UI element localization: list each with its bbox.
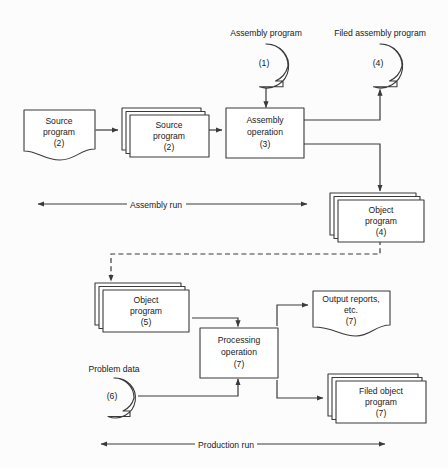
assembly-run-label: Assembly run xyxy=(130,200,182,210)
source-program-document-line2: program xyxy=(43,127,75,137)
object-program-deck-5: Object program (5) xyxy=(95,283,189,332)
problem-data-caption: Problem data xyxy=(88,364,139,374)
object-program-deck-5-line3: (5) xyxy=(141,317,152,327)
assembly-program-value: (1) xyxy=(259,58,270,68)
output-reports-line2: etc. xyxy=(344,305,358,315)
connector-assembly-to-object-program-4 xyxy=(304,144,380,191)
source-program-deck: Source program (2) xyxy=(122,108,209,157)
source-program-deck-line3: (2) xyxy=(164,142,175,152)
source-program-document-line3: (2) xyxy=(54,138,65,148)
filed-assembly-program-tape: Filed assembly program (4) xyxy=(334,28,426,88)
object-program-deck-5-line2: program xyxy=(130,306,162,316)
source-program-document-line1: Source xyxy=(45,116,72,126)
flowchart-diagram: Source program (2) Source program (2) As… xyxy=(0,0,448,468)
source-program-deck-line1: Source xyxy=(155,120,182,130)
processing-operation-line3: (7) xyxy=(234,359,245,369)
production-run-label: Production run xyxy=(198,440,254,450)
processing-operation-line2: operation xyxy=(221,347,257,357)
filed-assembly-program-value: (4) xyxy=(373,58,384,68)
assembly-operation-process: Assembly operation (3) xyxy=(226,108,304,158)
source-program-document: Source program (2) xyxy=(24,110,95,160)
filed-object-program-line1: Filed object xyxy=(359,386,404,396)
processing-operation-process: Processing operation (7) xyxy=(200,328,278,378)
object-program-deck-5-line1: Object xyxy=(134,295,159,305)
source-program-deck-line2: program xyxy=(153,131,185,141)
filed-object-program-line3: (7) xyxy=(376,408,387,418)
connector-processing-to-filed-object-program xyxy=(277,380,323,398)
production-run-span: Production run xyxy=(101,440,385,450)
output-reports-line3: (7) xyxy=(346,316,357,326)
filed-object-program-line2: program xyxy=(365,397,397,407)
assembly-operation-line3: (3) xyxy=(260,139,271,149)
object-program-deck-4: Object program (4) xyxy=(330,193,424,242)
assembly-program-tape: Assembly program (1) xyxy=(230,28,302,88)
object-program-deck-4-line3: (4) xyxy=(376,227,387,237)
assembly-program-caption: Assembly program xyxy=(230,28,302,38)
connector-object5-to-processing xyxy=(192,318,238,327)
connector-processing-to-output-reports xyxy=(277,305,308,326)
connector-problem-data-to-processing xyxy=(138,379,238,396)
assembly-operation-line2: operation xyxy=(247,127,283,137)
flowchart-canvas: Source program (2) Source program (2) As… xyxy=(0,0,448,468)
connector-dashed-object4-to-object5 xyxy=(111,240,380,281)
connector-assembly-to-filed-assembly xyxy=(304,90,380,121)
problem-data-tape: Problem data (6) xyxy=(88,364,139,418)
filed-assembly-program-caption: Filed assembly program xyxy=(334,28,426,38)
assembly-operation-line1: Assembly xyxy=(246,115,284,125)
problem-data-value: (6) xyxy=(107,391,118,401)
output-reports-line1: Output reports, xyxy=(322,294,379,304)
processing-operation-line1: Processing xyxy=(218,335,261,345)
output-reports-document: Output reports, etc. (7) xyxy=(313,291,390,336)
assembly-run-span: Assembly run xyxy=(38,200,307,210)
object-program-deck-4-line2: program xyxy=(365,216,397,226)
filed-object-program-deck: Filed object program (7) xyxy=(328,374,426,423)
object-program-deck-4-line1: Object xyxy=(369,205,394,215)
